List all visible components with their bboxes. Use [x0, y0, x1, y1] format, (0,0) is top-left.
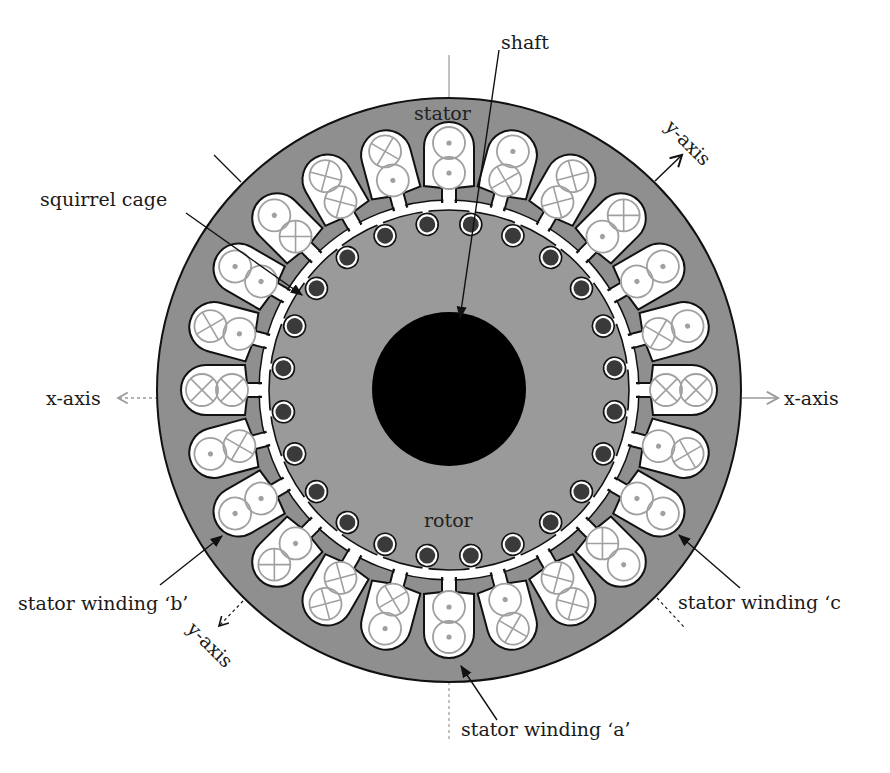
winding-c-label: stator winding ‘c — [678, 591, 841, 613]
winding-c-leader — [679, 535, 740, 588]
shaft-label: shaft — [501, 31, 549, 53]
y-axis-bottom-arrow — [219, 601, 243, 626]
y-axis-top-arrow — [655, 155, 682, 181]
shaft — [372, 312, 526, 466]
winding-b-label: stator winding ‘b’ — [18, 592, 188, 614]
rotor-label: rotor — [424, 509, 474, 531]
squirrel-cage-label: squirrel cage — [40, 188, 167, 210]
y-axis-bottom-label: y-axis — [182, 617, 237, 672]
stator-label: stator — [414, 102, 472, 124]
induction-motor-diagram: shaft stator rotor squirrel cage x-axis … — [0, 0, 890, 773]
diagonal-guide-top-left — [214, 155, 241, 182]
x-axis-left-label: x-axis — [46, 387, 101, 409]
y-axis-top-label: y-axis — [660, 115, 715, 170]
x-axis-right-label: x-axis — [784, 387, 839, 409]
winding-a-label: stator winding ‘a’ — [461, 718, 631, 740]
